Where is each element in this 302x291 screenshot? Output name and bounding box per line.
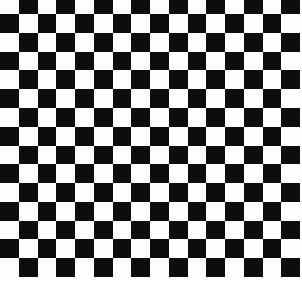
board-square <box>56 52 75 71</box>
board-square <box>263 221 282 240</box>
board-square <box>263 146 282 165</box>
board-square <box>75 258 94 277</box>
board-square <box>281 52 300 71</box>
board-square <box>169 164 188 183</box>
board-square <box>150 127 169 146</box>
board-square <box>281 33 300 52</box>
board-square <box>150 70 169 89</box>
board-square <box>38 146 57 165</box>
board-square <box>263 127 282 146</box>
board-square <box>94 0 113 14</box>
board-square <box>75 0 94 14</box>
board-square <box>113 258 132 277</box>
board-square <box>244 146 263 165</box>
board-square <box>19 14 38 33</box>
board-square <box>150 146 169 165</box>
board-square <box>150 202 169 221</box>
board-square <box>225 164 244 183</box>
board-square <box>56 258 75 277</box>
board-square <box>244 164 263 183</box>
board-square <box>263 239 282 258</box>
board-square <box>281 164 300 183</box>
board-square <box>113 221 132 240</box>
board-square <box>131 127 150 146</box>
board-square <box>131 108 150 127</box>
board-square <box>75 146 94 165</box>
board-square <box>150 239 169 258</box>
board-square <box>206 164 225 183</box>
board-square <box>206 127 225 146</box>
board-square <box>169 239 188 258</box>
board-square <box>19 146 38 165</box>
board-square <box>188 146 207 165</box>
board-square <box>225 0 244 14</box>
board-square <box>169 33 188 52</box>
board-square <box>263 52 282 71</box>
checkerboard <box>0 0 300 277</box>
board-square <box>0 164 19 183</box>
board-square <box>75 202 94 221</box>
board-square <box>169 127 188 146</box>
board-square <box>38 164 57 183</box>
board-square <box>169 183 188 202</box>
board-square <box>281 14 300 33</box>
board-square <box>188 239 207 258</box>
board-square <box>281 70 300 89</box>
board-square <box>244 0 263 14</box>
board-square <box>225 52 244 71</box>
board-square <box>19 202 38 221</box>
board-square <box>0 14 19 33</box>
board-square <box>75 14 94 33</box>
board-square <box>188 258 207 277</box>
board-square <box>263 164 282 183</box>
board-square <box>94 221 113 240</box>
board-square <box>19 127 38 146</box>
board-square <box>206 183 225 202</box>
board-square <box>263 70 282 89</box>
board-square <box>113 33 132 52</box>
board-square <box>19 70 38 89</box>
board-square <box>188 70 207 89</box>
board-square <box>38 52 57 71</box>
board-square <box>94 108 113 127</box>
board-square <box>263 33 282 52</box>
board-square <box>150 0 169 14</box>
board-square <box>113 0 132 14</box>
board-square <box>244 258 263 277</box>
board-square <box>56 0 75 14</box>
board-square <box>263 0 282 14</box>
board-square <box>38 89 57 108</box>
board-square <box>225 127 244 146</box>
board-square <box>263 14 282 33</box>
board-square <box>169 89 188 108</box>
board-square <box>38 221 57 240</box>
board-square <box>169 14 188 33</box>
board-square <box>56 202 75 221</box>
board-square <box>0 52 19 71</box>
board-square <box>188 164 207 183</box>
board-square <box>206 202 225 221</box>
board-square <box>94 89 113 108</box>
board-square <box>38 33 57 52</box>
board-square <box>19 89 38 108</box>
board-square <box>113 127 132 146</box>
board-square <box>169 0 188 14</box>
board-square <box>281 146 300 165</box>
board-square <box>75 164 94 183</box>
board-square <box>113 239 132 258</box>
board-square <box>56 239 75 258</box>
board-square <box>56 183 75 202</box>
board-square <box>206 108 225 127</box>
board-square <box>206 0 225 14</box>
board-square <box>131 239 150 258</box>
board-square <box>56 146 75 165</box>
board-square <box>113 89 132 108</box>
board-square <box>131 70 150 89</box>
board-square <box>169 52 188 71</box>
board-square <box>206 89 225 108</box>
board-square <box>244 52 263 71</box>
board-square <box>150 183 169 202</box>
board-square <box>281 202 300 221</box>
board-square <box>263 258 282 277</box>
board-square <box>38 183 57 202</box>
